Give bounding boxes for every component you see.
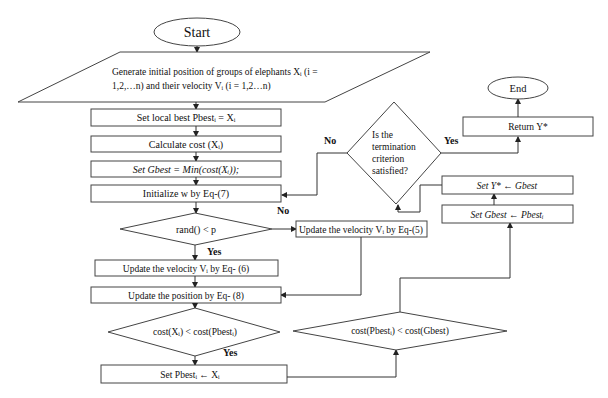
cost-decision-2-label: cost(Pbestᵢ) < cost(Gbest) [351,326,449,337]
end-label: End [510,83,528,94]
update-position-label: Update the position by Eq- (8) [128,291,244,302]
cost1-yes-label: Yes [223,347,238,358]
cost-decision-1-node: cost(Xᵢ) < cost(Pbestᵢ) [108,308,280,356]
rand-no-label: No [277,205,289,216]
termination-no-label: No [324,135,336,146]
set-local-best-node: Set local best Pbestᵢ = Xᵢ [91,109,281,126]
termination-yes-label: Yes [444,135,459,146]
flowchart: Start Generate initial position of group… [0,0,608,398]
init-io-node: Generate initial position of groups of e… [18,52,430,102]
initialize-w-label: Initialize w by Eq-(7) [143,188,229,200]
cost-decision-1-label: cost(Xᵢ) < cost(Pbestᵢ) [153,327,237,338]
set-gbest-node: Set Gbest = Min(cost(Xᵢ)); [91,161,281,177]
rand-decision-label: rand() < p [176,224,216,236]
set-gbest-label: Set Gbest = Min(cost(Xᵢ)); [133,164,239,176]
return-ystar-label: Return Y* [508,122,548,132]
edge-vel5-position [281,237,361,295]
update-velocity-eq6-label: Update the velocity Vᵢ by Eq- (6) [123,264,249,275]
cost-decision-2-node: cost(Pbestᵢ) < cost(Gbest) [293,312,507,350]
calculate-cost-node: Calculate cost (Xᵢ) [91,136,281,152]
calculate-cost-label: Calculate cost (Xᵢ) [149,139,223,151]
init-label-line1: Generate initial position of groups of e… [112,67,318,78]
update-velocity-eq5-label: Update the velocity Vᵢ by Eq-(5) [299,225,423,236]
end-terminal: End [488,77,548,99]
init-label-line2: 1,2,…n) and their velocity Vᵢ (i = 1,2…n… [112,81,271,92]
return-ystar-node: Return Y* [463,117,593,136]
start-label: Start [184,25,211,40]
set-pbest-label: Set Pbestᵢ ← Xᵢ [160,370,220,380]
start-terminal: Start [154,18,240,46]
set-gbest-from-pbest-label: Set Gbest ← Pbestᵢ [470,210,544,220]
set-local-best-label: Set local best Pbestᵢ = Xᵢ [137,112,236,123]
edge-pbest-cost2 [287,350,396,377]
edge-termination-no [282,153,347,195]
termination-label-4: satisfied? [372,166,408,176]
rand-yes-label: Yes [207,246,222,257]
termination-label-1: Is the [372,130,393,140]
set-pbest-node: Set Pbestᵢ ← Xᵢ [101,365,287,383]
update-velocity-eq6-node: Update the velocity Vᵢ by Eq- (6) [95,260,278,276]
termination-label-2: termination [372,142,416,152]
update-position-node: Update the position by Eq- (8) [91,287,281,303]
set-ystar-label: Set Y* ← Gbest [477,181,538,191]
set-gbest-from-pbest-node: Set Gbest ← Pbestᵢ [442,205,573,223]
initialize-w-node: Initialize w by Eq-(7) [91,185,281,202]
update-velocity-eq5-node: Update the velocity Vᵢ by Eq-(5) [296,221,427,237]
termination-label-3: criterion [372,154,404,164]
termination-decision-node: Is the termination criterion satisfied? [347,102,441,204]
rand-decision-node: rand() < p [120,213,272,245]
set-ystar-node: Set Y* ← Gbest [442,176,573,194]
